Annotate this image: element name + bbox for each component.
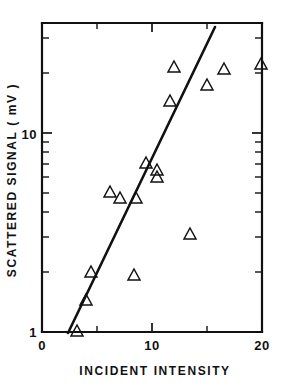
- y-axis-title: SCATTERED SIGNAL ( mV ): [5, 83, 19, 277]
- data-point-marker: [168, 61, 180, 72]
- data-point-marker: [184, 228, 196, 239]
- data-point-marker: [104, 186, 116, 197]
- data-point-marker: [218, 63, 230, 74]
- y-axis-ticks: [42, 38, 262, 332]
- scatter-plot-svg: 0 10 20 1 10 INCIDENT INTENSITY SCATTERE…: [0, 0, 290, 389]
- x-tick-label-0: 0: [38, 338, 46, 353]
- plot-frame: [42, 23, 262, 332]
- y-tick-label-1: 1: [29, 325, 37, 340]
- chart-figure: 0 10 20 1 10 INCIDENT INTENSITY SCATTERE…: [0, 0, 290, 389]
- x-axis-title: INCIDENT INTENSITY: [79, 364, 230, 378]
- x-axis-ticks: [42, 23, 262, 332]
- x-tick-label-10: 10: [144, 338, 159, 353]
- data-points: [71, 58, 267, 336]
- data-point-marker: [201, 79, 213, 90]
- x-tick-label-20: 20: [254, 338, 269, 353]
- data-point-marker: [71, 325, 83, 336]
- data-point-marker: [128, 269, 140, 280]
- y-tick-label-10: 10: [22, 127, 37, 142]
- data-point-marker: [164, 95, 176, 106]
- fit-line: [68, 27, 215, 333]
